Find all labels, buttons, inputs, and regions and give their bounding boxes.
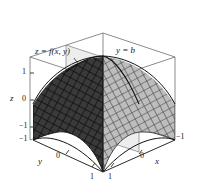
tick-label-y-neg1: −1 <box>19 135 28 143</box>
axis-label-y: y <box>38 157 42 166</box>
axis-label-z: z <box>10 94 14 103</box>
tick-label-x-neg1: −1 <box>176 133 185 141</box>
tick-y-0 <box>66 150 69 154</box>
tick-y-1 <box>92 163 95 167</box>
surface-z-equals-f-of-x-y <box>33 56 175 172</box>
tick-label-y-0: 0 <box>56 152 60 160</box>
axis-label-x: x <box>155 157 159 166</box>
surface-light-half <box>103 56 175 172</box>
tick-label-z-neg1: −1 <box>19 122 28 130</box>
tick-label-x-0: 0 <box>140 152 144 160</box>
plot-canvas <box>0 0 197 196</box>
tick-label-y-1: 1 <box>90 173 94 181</box>
tick-label-z-0: 0 <box>22 95 26 103</box>
surface-plot-figure: z = f(x, y) y = b z 1 0 −1 y −1 0 1 x −1… <box>0 0 197 196</box>
surface-label: z = f(x, y) <box>35 47 70 56</box>
tick-label-z-1: 1 <box>22 68 26 76</box>
tick-label-x-1: 1 <box>108 173 112 181</box>
surface-dark-half <box>33 56 103 172</box>
cut-plane-label: y = b <box>116 46 135 55</box>
